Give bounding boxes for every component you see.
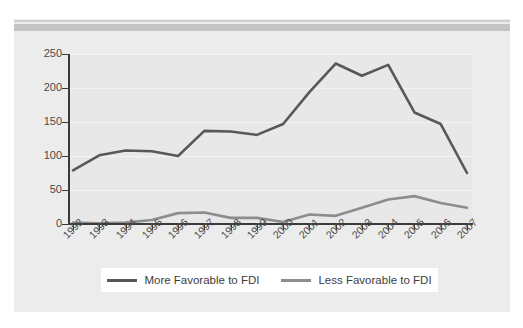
y-axis-tick-label: 200 (44, 82, 62, 93)
decorative-rule-bar (14, 24, 510, 31)
y-axis-line (68, 54, 70, 225)
chart-legend: More Favorable to FDILess Favorable to F… (101, 268, 438, 292)
y-axis-tick-label: 150 (44, 116, 62, 127)
series-lines (68, 54, 472, 224)
chart-figure: 050100150200250 199219931994199519961997… (0, 0, 523, 328)
legend-line-swatch (107, 279, 137, 282)
plot-area (68, 54, 472, 224)
series-line-more-favorable (73, 64, 467, 173)
legend-label: Less Favorable to FDI (318, 274, 431, 286)
legend-label: More Favorable to FDI (144, 274, 259, 286)
y-axis-labels: 050100150200250 (20, 0, 62, 328)
legend-line-swatch (281, 279, 311, 282)
legend-entry[interactable]: Less Favorable to FDI (281, 274, 431, 286)
y-axis-tick-label: 250 (44, 48, 62, 59)
decorative-rule-thin (14, 20, 510, 22)
y-axis-tick-label: 100 (44, 150, 62, 161)
y-axis-tick-label: 50 (50, 184, 62, 195)
legend-entry[interactable]: More Favorable to FDI (107, 274, 259, 286)
